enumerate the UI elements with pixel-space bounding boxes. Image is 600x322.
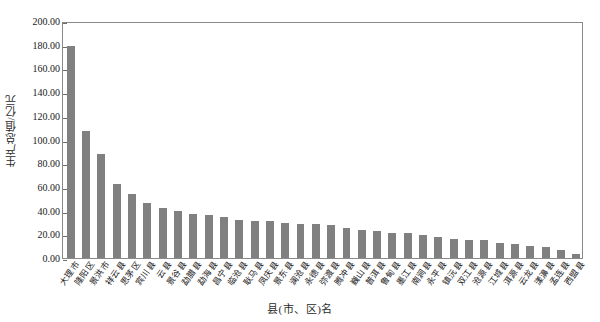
bar [174, 211, 182, 258]
bar [465, 240, 473, 258]
bar [511, 244, 519, 258]
bar [419, 235, 427, 258]
bar [526, 246, 534, 258]
bar [128, 194, 136, 258]
y-tick-label: 20.00 [16, 230, 60, 240]
bar [434, 237, 442, 258]
bar [159, 208, 167, 258]
bar [67, 46, 75, 258]
bar [266, 221, 274, 258]
y-tick-label: 0.00 [16, 254, 60, 264]
bar [251, 221, 259, 258]
bar-chart: 生产总值/亿元 200.00180.00160.00140.00120.0010… [0, 0, 600, 322]
bar [327, 225, 335, 258]
y-tick-label: 140.00 [16, 88, 60, 98]
bar [450, 239, 458, 258]
y-tick-label: 60.00 [16, 183, 60, 193]
bar [343, 228, 351, 258]
bar [235, 220, 243, 258]
bar [297, 224, 305, 258]
bar [143, 203, 151, 258]
bar [480, 240, 488, 258]
bar [97, 154, 105, 258]
x-axis-title: 县(市、区)名 [0, 300, 600, 316]
plot-area [62, 22, 583, 259]
y-tick-label: 40.00 [16, 207, 60, 217]
bar [82, 131, 90, 258]
y-tick-label: 200.00 [16, 17, 60, 27]
bar [542, 247, 550, 258]
bar [572, 254, 580, 258]
y-axis-tick-labels: 200.00180.00160.00140.00120.00100.0080.0… [16, 0, 60, 270]
y-tick-label: 180.00 [16, 41, 60, 51]
bar [220, 217, 228, 258]
bar [189, 214, 197, 258]
y-tick-label: 160.00 [16, 64, 60, 74]
bar [281, 223, 289, 258]
bar [557, 250, 565, 258]
bar [205, 215, 213, 258]
bar [388, 233, 396, 258]
bar [312, 224, 320, 258]
bar [496, 243, 504, 258]
bar [373, 231, 381, 258]
y-tick-label: 120.00 [16, 112, 60, 122]
bar [113, 184, 121, 258]
y-tick-label: 100.00 [16, 136, 60, 146]
bar [404, 233, 412, 258]
bar [358, 230, 366, 258]
bars-layer [63, 23, 582, 258]
y-tick-label: 80.00 [16, 159, 60, 169]
